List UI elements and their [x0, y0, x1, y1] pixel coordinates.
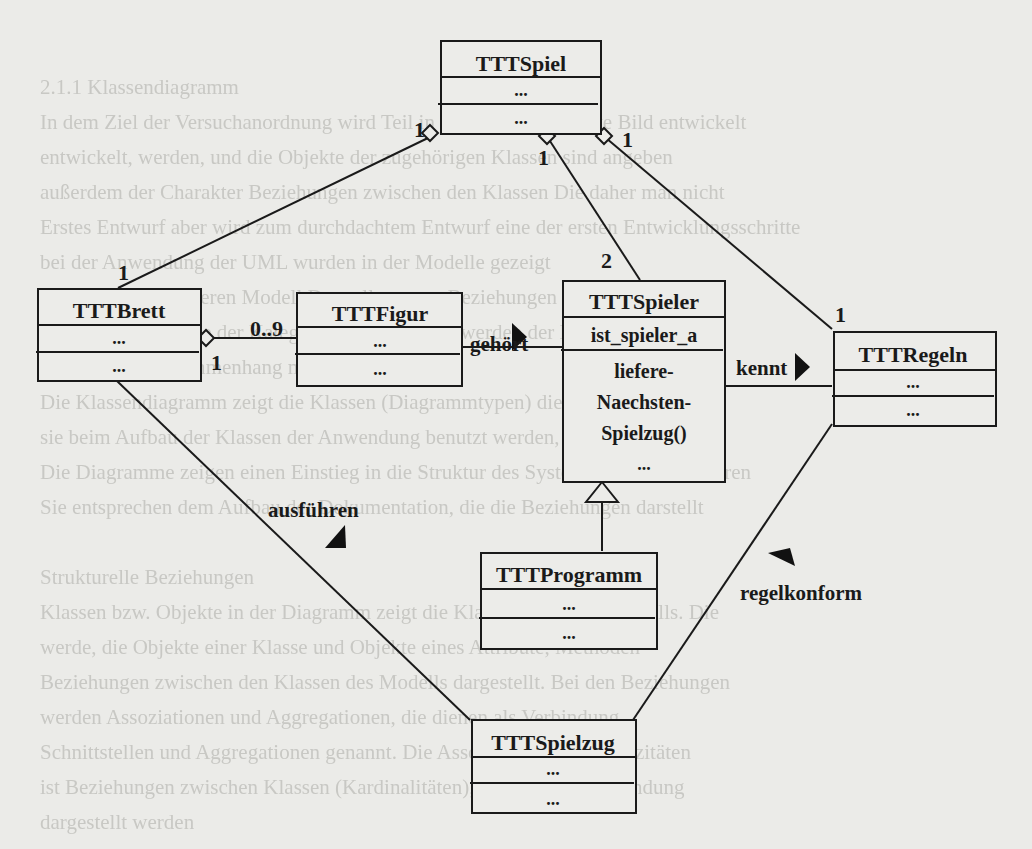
class-operation-line: liefere- — [614, 360, 674, 382]
class-attributes: ... — [906, 372, 920, 392]
class-attributes: ... — [546, 759, 560, 779]
class-ttt-figur: TTTFigur ... ... — [295, 293, 462, 386]
edge-brett-spielzug — [117, 381, 470, 720]
class-operations: ... — [906, 400, 920, 420]
direction-arrow-regelkonform-icon — [768, 548, 795, 566]
class-attributes: ... — [112, 328, 126, 348]
class-operation-line: Spielzug() — [601, 422, 687, 445]
class-ttt-spiel: TTTSpiel ... ... — [438, 41, 601, 134]
class-operations: ... — [546, 789, 560, 809]
generalization-triangle-icon — [586, 482, 618, 502]
association-label-ausfuehren: ausführen — [268, 498, 359, 522]
multiplicity-brett-figur-whole: 1 — [211, 350, 222, 375]
class-name: TTTSpielzug — [491, 730, 614, 755]
class-name: TTTBrett — [73, 298, 166, 323]
class-operations: ... — [373, 359, 387, 379]
class-operation-more: ... — [637, 454, 651, 474]
class-attributes: ... — [373, 331, 387, 351]
class-name: TTTSpiel — [476, 51, 566, 76]
direction-arrow-ausfuehren-icon — [325, 525, 346, 548]
association-label-regelkonform: regelkonform — [740, 581, 863, 605]
association-label-gehoert: gehört — [470, 332, 528, 356]
multiplicity-spiel-spieler-whole: 1 — [538, 145, 549, 170]
association-label-kennt: kennt — [736, 356, 787, 380]
class-attributes: ... — [562, 594, 576, 614]
class-attribute: ist_spieler_a — [591, 324, 698, 347]
class-attributes: ... — [514, 80, 528, 100]
class-operations: ... — [562, 623, 576, 643]
class-name: TTTProgramm — [496, 562, 642, 587]
multiplicity-spiel-regeln-whole: 1 — [622, 127, 633, 152]
class-name: TTTSpieler — [589, 289, 699, 314]
class-name: TTTFigur — [332, 301, 429, 326]
edge-spiel-brett — [118, 137, 430, 288]
direction-arrow-kennt-icon — [795, 353, 810, 381]
class-name: TTTRegeln — [859, 342, 968, 367]
class-ttt-programm: TTTProgramm ... ... — [479, 553, 657, 649]
class-operations: ... — [514, 108, 528, 128]
class-ttt-brett: TTTBrett ... ... — [36, 289, 201, 381]
edge-spiel-spieler — [548, 138, 640, 280]
multiplicity-brett-figur-part: 0..9 — [250, 316, 283, 341]
multiplicity-spiel-regeln-part: 1 — [835, 302, 846, 327]
multiplicity-spiel-brett-part: 1 — [118, 260, 129, 285]
multiplicity-spiel-spieler-part: 2 — [601, 248, 612, 273]
class-ttt-regeln: TTTRegeln ... ... — [832, 332, 996, 426]
class-ttt-spieler: TTTSpieler ist_spieler_a liefere- Naechs… — [561, 281, 725, 482]
class-ttt-spielzug: TTTSpielzug ... ... — [470, 720, 636, 813]
uml-class-diagram: 1 1 1 2 1 1 0..9 1 gehört kennt ausführe… — [0, 0, 1032, 849]
class-operations: ... — [112, 356, 126, 376]
class-operation-line: Naechsten- — [597, 391, 691, 413]
multiplicity-spiel-brett-whole: 1 — [414, 117, 425, 142]
